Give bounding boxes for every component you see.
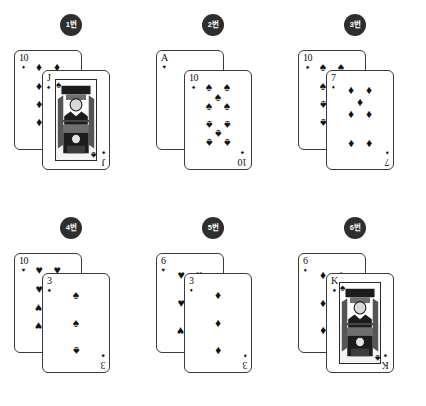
card-suit-icon: ♦ [385, 150, 388, 156]
group-number-badge: 6번 [344, 217, 366, 239]
card-stack: 10♦10♦♦♦♦♦♦♦♦♦♦♦J♠J♠♠♠ [0, 44, 142, 194]
card-corner-index-tl: 3♦ [189, 276, 194, 293]
playing-card-front[interactable]: K♠K♠♠♠ [326, 273, 394, 373]
playing-card-front[interactable]: J♠J♠♠♠ [42, 70, 110, 170]
card-corner-index-tl: 10♦ [19, 53, 28, 70]
card-pip: ♠ [224, 119, 230, 131]
card-suit-icon: ♥ [163, 64, 167, 70]
card-pip: ♠ [224, 137, 230, 149]
card-corner-index-tl: A♥ [161, 53, 168, 70]
court-card-artwork [55, 79, 97, 161]
card-pip-grid: ♠♠♠♠♠♠♠♠♠♠ [200, 78, 236, 162]
card-corner-index-tl: 6♥ [161, 256, 166, 273]
card-stack: 10♥10♥♥♥♥♥♥♥♥♥♥♥3♠3♠♠♠♠ [0, 247, 142, 397]
card-rank: 7 [331, 73, 336, 83]
card-rank: 3 [243, 360, 248, 370]
card-suit-icon: ♠ [56, 80, 61, 90]
card-corner-index-br: 3♠ [101, 353, 106, 370]
card-pip: ♦ [366, 84, 372, 96]
card-pip-grid: ♠♠♠ [58, 281, 94, 365]
card-pip: ♦ [215, 345, 221, 357]
card-suit-icon: ♠ [48, 287, 51, 293]
card-corner-index-br: 7♦ [385, 150, 390, 167]
card-rank: J [47, 73, 50, 83]
card-pip: ♦ [366, 138, 372, 150]
card-suit-icon: ♦ [243, 353, 246, 359]
card-suit-icon: ♦ [190, 287, 193, 293]
card-rank: 3 [101, 360, 106, 370]
card-pip: ♠ [206, 81, 212, 93]
card-corner-index-tl: J♠ [47, 73, 50, 90]
card-suit-icon: ♠ [375, 353, 380, 363]
card-pip: ♠ [206, 137, 212, 149]
card-suit-icon: ♠ [101, 353, 104, 359]
card-pip: ♦ [348, 84, 354, 96]
playing-card-front[interactable]: 7♦7♦♦♦♦♦♦♦♦ [326, 70, 394, 170]
card-suit-icon: ♠ [47, 84, 50, 90]
card-pip: ♦ [348, 138, 354, 150]
group-number-badge: 4번 [60, 217, 82, 239]
group-number-badge: 3번 [344, 14, 366, 36]
card-suit-icon: ♠ [241, 150, 244, 156]
card-suit-icon: ♠ [91, 150, 96, 160]
card-corner-index-tl: 10♥ [19, 256, 28, 273]
playing-card-front[interactable]: 3♠3♠♠♠♠ [42, 273, 110, 373]
card-suit-icon: ♦ [332, 84, 335, 90]
card-pip: ♦ [215, 289, 221, 301]
card-rank: 10 [303, 53, 312, 63]
card-rank: K [331, 276, 338, 286]
group-number-badge: 5번 [202, 217, 224, 239]
card-rank: 10 [238, 157, 247, 167]
card-rank: K [382, 360, 389, 370]
card-rank: 10 [19, 53, 28, 63]
card-corner-index-tl: 10♠ [303, 53, 312, 70]
card-suit-icon: ♠ [384, 353, 387, 359]
card-stack: 10♠10♠♠♠♠♠♠♠♠♠♠♠7♦7♦♦♦♦♦♦♦♦ [284, 44, 426, 194]
card-stack: 6♥6♥♥♥♥♥♥♥3♦3♦♦♦♦ [142, 247, 284, 397]
card-rank: 7 [385, 157, 390, 167]
card-suit-icon: ♠ [306, 64, 309, 70]
card-pip: ♠ [73, 317, 79, 329]
card-pair-group: 1번10♦10♦♦♦♦♦♦♦♦♦♦♦J♠J♠♠♠ [0, 0, 142, 203]
card-rank: A [161, 53, 168, 63]
card-pair-group: 3번10♠10♠♠♠♠♠♠♠♠♠♠♠7♦7♦♦♦♦♦♦♦♦ [284, 0, 426, 203]
card-pair-group: 6번6♦6♦♦♦♦♦♦♦K♠K♠♠♠ [284, 203, 426, 406]
card-stack: A♥A♥♥10♠10♠♠♠♠♠♠♠♠♠♠♠ [142, 44, 284, 194]
card-rank: 3 [189, 276, 194, 286]
card-pip: ♠ [224, 100, 230, 112]
card-corner-index-br: K♠ [382, 353, 389, 370]
card-corner-index-tl: 7♦ [331, 73, 336, 90]
card-suit-icon: ♦ [22, 64, 25, 70]
card-pip: ♠ [206, 119, 212, 131]
playing-card-front[interactable]: 3♦3♦♦♦♦ [184, 273, 252, 373]
card-pip: ♦ [357, 96, 363, 108]
card-rank: 6 [303, 256, 308, 266]
card-corner-index-tl: K♠ [331, 276, 338, 293]
card-rank: J [102, 157, 105, 167]
card-suit-icon: ♠ [192, 84, 195, 90]
card-pip: ♠ [206, 100, 212, 112]
card-stack: 6♦6♦♦♦♦♦♦♦K♠K♠♠♠ [284, 247, 426, 397]
card-rank: 10 [19, 256, 28, 266]
card-pip: ♦ [215, 317, 221, 329]
card-pip: ♠ [73, 289, 79, 301]
playing-card-front[interactable]: 10♠10♠♠♠♠♠♠♠♠♠♠♠ [184, 70, 252, 170]
card-pip: ♠ [320, 61, 326, 73]
card-pip: ♦ [36, 61, 42, 73]
card-suit-icon: ♥ [22, 267, 26, 273]
card-pip-grid: ♦♦♦ [200, 281, 236, 365]
card-suit-icon: ♠ [102, 150, 105, 156]
card-rank: 6 [161, 256, 166, 266]
court-card-artwork [339, 282, 381, 364]
card-pip: ♦ [348, 108, 354, 120]
card-pip: ♠ [224, 81, 230, 93]
card-pip: ♠ [215, 91, 221, 103]
card-pair-board: 1번10♦10♦♦♦♦♦♦♦♦♦♦♦J♠J♠♠♠2번A♥A♥♥10♠10♠♠♠♠… [0, 0, 426, 406]
card-pair-group: 2번A♥A♥♥10♠10♠♠♠♠♠♠♠♠♠♠♠ [142, 0, 284, 203]
card-pip: ♦ [366, 108, 372, 120]
card-pip: ♥ [35, 264, 42, 276]
card-corner-index-tl: 3♠ [47, 276, 52, 293]
card-pip: ♠ [215, 128, 221, 140]
card-suit-icon: ♥ [161, 267, 165, 273]
card-suit-icon: ♠ [340, 283, 345, 293]
